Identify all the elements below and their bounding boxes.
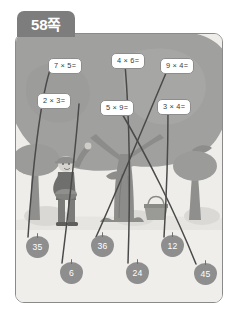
answer-fruit-35[interactable]: 35 xyxy=(26,236,49,258)
answer-value: 45 xyxy=(201,270,211,279)
equation-label-9x4[interactable]: 9 × 4= xyxy=(160,58,194,74)
equation-label-5x9[interactable]: 5 × 9= xyxy=(100,100,134,116)
orchard-illustration xyxy=(16,34,222,302)
answer-fruit-24[interactable]: 24 xyxy=(126,262,149,284)
equation-text: 7 × 5= xyxy=(54,61,76,70)
equation-text: 5 × 9= xyxy=(106,103,128,112)
fruit-stem-icon xyxy=(205,260,206,265)
page-number-label: 58쪽 xyxy=(31,17,61,32)
fruit-stem-icon xyxy=(71,259,72,264)
fruit-stem-icon xyxy=(37,233,38,238)
equation-label-3x4[interactable]: 3 × 4= xyxy=(157,99,191,115)
equation-text: 9 × 4= xyxy=(166,61,188,70)
worksheet-page: 58쪽 xyxy=(0,0,236,315)
answer-fruit-36[interactable]: 36 xyxy=(91,235,114,257)
equation-label-7x5[interactable]: 7 × 5= xyxy=(48,58,82,74)
answer-value: 24 xyxy=(133,269,143,278)
answer-fruit-45[interactable]: 45 xyxy=(194,263,217,285)
fruit-stem-icon xyxy=(137,259,138,264)
equation-label-4x6[interactable]: 4 × 6= xyxy=(111,53,145,69)
fruit-stem-icon xyxy=(102,232,103,237)
equation-label-2x3[interactable]: 2 × 3= xyxy=(37,93,71,109)
answer-value: 12 xyxy=(168,242,178,251)
equation-text: 3 × 4= xyxy=(163,102,185,111)
page-number-tab: 58쪽 xyxy=(17,11,75,37)
equation-text: 4 × 6= xyxy=(117,56,139,65)
answer-fruit-12[interactable]: 12 xyxy=(161,235,184,257)
equation-text: 2 × 3= xyxy=(43,96,65,105)
answer-fruit-6[interactable]: 6 xyxy=(60,262,83,284)
answer-value: 35 xyxy=(33,243,43,252)
answer-value: 36 xyxy=(98,242,108,251)
worksheet-frame xyxy=(15,33,223,303)
answer-value: 6 xyxy=(69,269,74,278)
fruit-stem-icon xyxy=(172,232,173,237)
